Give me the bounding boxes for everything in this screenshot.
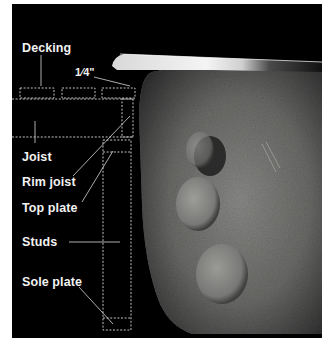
gap-leader [94, 77, 130, 86]
stone-photo [139, 66, 322, 334]
decking-board-3 [102, 88, 135, 98]
sole-plate-leader [79, 287, 113, 324]
wall-stud-outline [103, 140, 131, 330]
blade-photo [112, 54, 322, 72]
photo-panel: Decking 1⁄4" Joist Rim joist Top plate S… [12, 4, 322, 338]
label-sole-plate: Sole plate [22, 275, 82, 289]
label-top-plate: Top plate [22, 201, 78, 215]
label-studs: Studs [22, 235, 57, 249]
label-decking: Decking [22, 41, 71, 55]
label-gap: 1⁄4" [75, 66, 95, 78]
rim-joist-leader [73, 116, 130, 176]
decking-board-1 [20, 88, 54, 98]
decking-board-2 [62, 88, 95, 98]
label-rim-joist: Rim joist [22, 175, 76, 189]
top-plate-leader [82, 151, 113, 202]
rim-joist-outline [122, 99, 133, 137]
label-joist: Joist [22, 150, 52, 164]
